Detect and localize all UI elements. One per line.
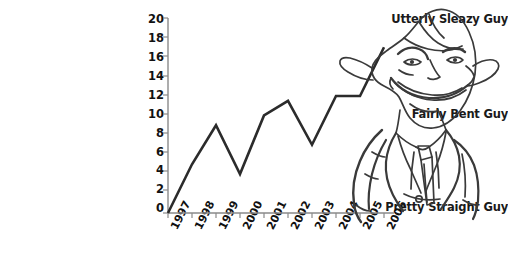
left-eye [404, 59, 421, 65]
collar-notch [416, 147, 429, 150]
lapel-left-inner [398, 136, 421, 193]
x-tick-label: 1998 [192, 199, 217, 232]
hair-sweep [419, 22, 463, 49]
jacket-sleeve-left-inner [369, 140, 386, 209]
x-tick-label: 2001 [264, 199, 289, 232]
necktie-blade [421, 157, 434, 205]
hairline-edge [404, 38, 462, 51]
x-tick-label: 1997 [168, 199, 193, 232]
mouth-lower-lip [395, 83, 466, 100]
jacket-waist-line [404, 194, 440, 200]
y-category-label-top: Utterly Sleazy Guy [363, 12, 508, 26]
cheek-crease-left [399, 70, 413, 75]
sleeve-fold-b [365, 174, 378, 179]
cheek-crease-right [466, 66, 474, 76]
necktie-knot [418, 146, 432, 160]
y-tick-label: 8 [146, 126, 164, 140]
left-eyebrow [398, 48, 428, 59]
grin-corner-right [468, 77, 474, 85]
y-tick-label: 20 [146, 12, 164, 26]
y-tick-label: 16 [146, 50, 164, 64]
necktie-sheen [424, 164, 427, 202]
sleazy-businessman-illustration [0, 0, 508, 274]
mouth-grin [391, 78, 468, 98]
x-tick-label: 2000 [240, 199, 265, 232]
y-tick-label: 4 [146, 163, 164, 177]
data-series-line [168, 47, 384, 213]
y-tick-label: 12 [146, 88, 164, 102]
shirt-fold-2 [436, 152, 439, 188]
sleeve-fold-a [372, 152, 385, 157]
chart-container: Utterly Sleazy Guy Fairly Bent Guy Prett… [0, 0, 508, 274]
left-ear [340, 58, 373, 80]
jacket-lapel-right [441, 130, 460, 209]
plot-area [0, 0, 508, 274]
x-tick-label: 2002 [288, 199, 313, 232]
jacket-sleeve-right-seam [462, 154, 465, 197]
y-tick-label: 10 [146, 107, 164, 121]
x-tick-label: 2004 [336, 199, 361, 232]
x-tick-label: 2003 [312, 199, 337, 232]
collar-right [429, 130, 446, 147]
y-tick-label: 0 [146, 201, 164, 215]
left-pupil [410, 60, 414, 64]
right-ear [467, 60, 499, 86]
y-tick-label: 14 [146, 69, 164, 83]
y-category-label-middle: Fairly Bent Guy [363, 107, 508, 121]
right-eye [447, 57, 463, 63]
right-pupil [453, 58, 457, 62]
shirt-fold-1 [411, 152, 414, 189]
y-category-label-bottom: Pretty Straight Guy [363, 200, 508, 214]
y-tick-label: 6 [146, 145, 164, 159]
y-tick-label: 18 [146, 31, 164, 45]
lapel-right-inner [426, 132, 446, 191]
y-tick-label: 2 [146, 182, 164, 196]
x-tick-label: 1999 [216, 199, 241, 232]
grin-corner-left [390, 78, 393, 89]
collar-left [396, 133, 416, 147]
right-eyebrow [443, 48, 465, 52]
teeth-line [398, 82, 462, 95]
nose [428, 60, 440, 79]
